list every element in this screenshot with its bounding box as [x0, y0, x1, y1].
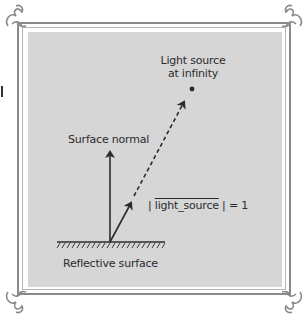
light-source-label-line2: at infinity	[160, 67, 226, 80]
magnitude-prefix: |	[148, 199, 155, 212]
light-source-label-line1: Light source	[160, 54, 226, 67]
diagram-figure: Light source at infinity Surface normal …	[0, 0, 308, 315]
surface-hatching	[57, 243, 165, 248]
corner-ornament-bottom-right-icon	[282, 292, 301, 313]
surface-normal-label: Surface normal	[68, 133, 149, 146]
corner-ornament-top-right-icon	[282, 5, 301, 26]
unit-magnitude-label: | light_source | = 1	[148, 199, 248, 212]
light-source-label: Light source at infinity	[160, 54, 226, 80]
unit-light-vector-arrow	[110, 203, 131, 242]
corner-ornament-top-left-icon	[7, 5, 26, 26]
corner-ornament-bottom-left-icon	[7, 292, 26, 313]
magnitude-suffix: | = 1	[219, 199, 248, 212]
dashed-direction-line	[134, 102, 184, 196]
reflective-surface-label: Reflective surface	[63, 257, 158, 270]
magnitude-variable: light_source	[155, 199, 219, 212]
light-source-point	[190, 87, 195, 92]
